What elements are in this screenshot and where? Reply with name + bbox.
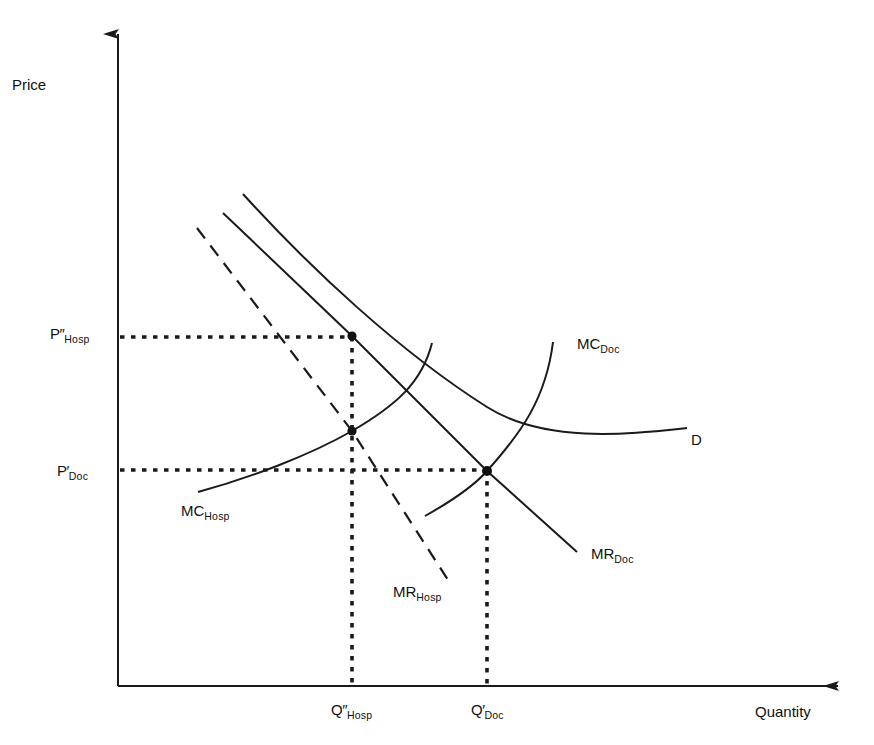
mr-hosp-curve [197,228,450,583]
curve-label-demand: D [691,432,702,447]
point-hospital-outcome [347,331,356,340]
quantity-label-hosp: Q″Hosp [331,702,372,717]
economics-diagram: Price Quantity P″Hosp P′Doc Q″Hosp Q′Doc… [0,0,874,745]
mr-doc-curve [223,213,577,552]
curve-label-mc-hosp: MCHosp [181,503,230,518]
diagram-canvas [0,0,874,745]
curve-label-mr-doc: MRDoc [591,546,634,561]
x-axis-label: Quantity [755,704,811,719]
point-physician-outcome [482,466,492,476]
quantity-label-doc: Q′Doc [471,702,504,717]
point-hospital-mr-mc [347,426,356,435]
curve-label-mc-doc: MCDoc [577,336,620,351]
y-axis-label: Price [12,77,46,92]
demand-curve [243,194,687,434]
curve-label-mr-hosp: MRHosp [393,584,442,599]
price-label-hosp: P″Hosp [50,326,90,341]
price-label-doc: P′Doc [57,463,88,478]
